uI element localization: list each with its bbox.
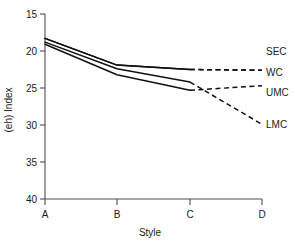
y-tick-label-3: 30 (26, 120, 38, 131)
line-chart-canvas: 15 20 25 30 35 40 A B C D Style (eh) Ind… (0, 0, 295, 243)
series-line-umc-solid (45, 44, 190, 90)
chart-figure: 15 20 25 30 35 40 A B C D Style (eh) Ind… (0, 0, 295, 243)
x-tick-label-2: C (186, 209, 193, 220)
x-tick-label-3: D (258, 209, 265, 220)
y-tick-label-0: 15 (26, 9, 38, 20)
series-layer (45, 38, 262, 124)
legend-label-lmc: LMC (266, 119, 287, 130)
legend-label-wc: WC (266, 67, 283, 78)
y-axis-tick-labels: 15 20 25 30 35 40 (26, 9, 38, 205)
series-line-lmc-solid (45, 42, 190, 82)
y-tick-label-2: 25 (26, 83, 38, 94)
y-tick-label-4: 35 (26, 157, 38, 168)
y-axis-ticks (40, 14, 45, 199)
x-tick-label-0: A (42, 209, 49, 220)
y-axis-title: (eh) Index (3, 87, 14, 132)
legend: SEC WC UMC LMC (266, 46, 289, 130)
x-tick-label-1: B (114, 209, 121, 220)
series-line-wc-dashed (190, 70, 262, 71)
y-tick-label-5: 40 (26, 194, 38, 205)
x-axis-title: Style (139, 227, 162, 238)
legend-label-sec: SEC (266, 46, 287, 57)
y-tick-label-1: 20 (26, 46, 38, 57)
x-axis-tick-labels: A B C D (42, 209, 266, 220)
legend-label-umc: UMC (266, 87, 289, 98)
x-axis-ticks (45, 199, 262, 205)
